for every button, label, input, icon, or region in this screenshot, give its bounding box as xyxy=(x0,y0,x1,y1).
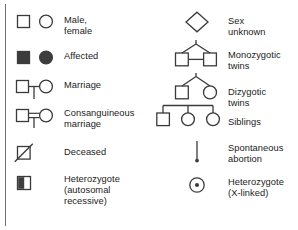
legend-label-monozygotic-twins: Monozygotic twins xyxy=(228,50,281,72)
legend-label-deceased: Deceased xyxy=(64,147,106,158)
monozygotic-twin-fork-icon xyxy=(166,40,228,68)
legend-label-heterozygote-x-linked: Heterozygote (X-linked) xyxy=(228,177,284,199)
marriage-line-icon xyxy=(14,77,62,101)
pedigree-legend: Male, female Affected Marr xyxy=(0,0,298,230)
open-diamond-icon xyxy=(182,10,216,34)
figure-left-rule xyxy=(5,4,6,226)
sibship-bar-icon xyxy=(156,103,228,133)
legend-label-consanguineous-marriage: Consanguineous marriage xyxy=(64,108,134,130)
legend-label-spontaneous-abortion: Spontaneous abortion xyxy=(228,143,283,165)
open-square-and-open-circle-icon xyxy=(14,12,62,30)
legend-label-dizygotic-twins: Dizygotic twins xyxy=(228,87,266,109)
legend-label-heterozygote-autosomal: Heterozygote (autosomal recessive) xyxy=(64,174,120,208)
consanguineous-double-line-icon xyxy=(14,106,62,130)
legend-label-marriage: Marriage xyxy=(64,80,101,91)
legend-column-right: Sex unknown Monozygotic twins xyxy=(160,0,298,230)
deceased-slashed-square-icon xyxy=(14,143,62,163)
legend-label-siblings: Siblings xyxy=(228,117,261,128)
circle-with-center-dot-icon xyxy=(182,175,216,195)
legend-column-left: Male, female Affected Marr xyxy=(14,0,154,230)
legend-label-sex-unknown: Sex unknown xyxy=(228,16,266,38)
dizygotic-twin-fork-icon xyxy=(166,73,228,101)
legend-label-male-female: Male, female xyxy=(64,15,92,37)
spontaneous-abortion-line-dot-icon xyxy=(182,140,216,166)
half-filled-square-icon xyxy=(14,173,62,193)
filled-square-and-filled-circle-icon xyxy=(14,48,62,66)
legend-label-affected: Affected xyxy=(64,51,98,62)
